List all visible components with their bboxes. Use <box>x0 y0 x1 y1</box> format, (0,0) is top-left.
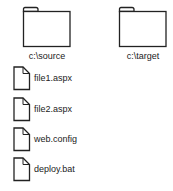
folder-label: c:\source <box>22 51 72 61</box>
file-label: web.config <box>34 134 77 144</box>
file-icon <box>13 66 31 91</box>
file-icon <box>13 127 31 152</box>
folder-icon <box>118 6 168 48</box>
file-icon <box>13 157 31 182</box>
file-label: file2.aspx <box>34 104 72 114</box>
file-icon <box>13 97 31 122</box>
folder-icon <box>22 6 72 48</box>
file-label: deploy.bat <box>34 164 75 174</box>
file-label: file1.aspx <box>34 73 72 83</box>
folder-label: c:\target <box>118 51 168 61</box>
